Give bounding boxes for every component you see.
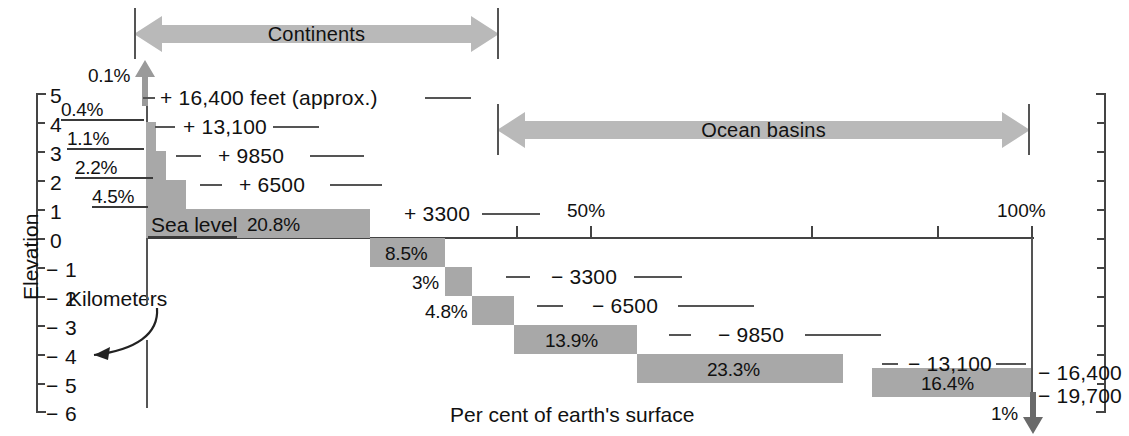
elevation-axis-title: Elevation (20, 214, 41, 300)
continents-banner-right-cap (497, 8, 499, 59)
right-scale-tick-1 (1097, 209, 1106, 211)
percent-label-16-4: 16.4% (921, 374, 974, 393)
percent-axis-tick-25 (516, 226, 518, 238)
feet-leader-minus-6500-right (678, 305, 754, 307)
bar-3-percent (445, 267, 472, 296)
right-scale-tick-m4 (1097, 354, 1106, 356)
hundred-percent-reference-line (1031, 238, 1033, 404)
right-scale-tick-m2 (1097, 296, 1106, 298)
continents-banner-left-cap (134, 8, 136, 59)
feet-leader-minus-3300-left (506, 276, 530, 278)
percent-label-4-5: 4.5% (92, 187, 134, 206)
right-scale-tick-m6 (1097, 411, 1106, 413)
percent-label-0-4: 0.4% (61, 100, 103, 119)
feet-leader-3300-right (482, 213, 540, 215)
percent-axis-tick-75 (811, 226, 813, 238)
feet-leader-9850-right (310, 155, 364, 157)
percent-label-8-5: 8.5% (385, 244, 428, 263)
continents-banner: Continents (134, 14, 499, 54)
hypsographic-curve-figure: Continents Ocean basins 5 4 3 2 1 0 − 1 … (0, 0, 1129, 436)
feet-leader-13100-left (155, 126, 175, 128)
ocean-basins-banner-right-cap (1028, 104, 1030, 155)
percent-label-2-2: 2.2% (75, 158, 117, 177)
bar-4-8-percent (472, 296, 514, 325)
elevation-tick-m5 (36, 383, 45, 385)
feet-label-minus-13100: − 13,100 (908, 353, 992, 374)
elevation-tick-m6 (36, 411, 45, 413)
percent-label-20-8: 20.8% (247, 215, 300, 234)
percent-label-13-9: 13.9% (545, 331, 598, 350)
percent-label-1-1: 1.1% (67, 129, 109, 148)
elevation-label-m5: − 5 (46, 375, 77, 396)
elevation-label-1: 1 (50, 201, 62, 222)
feet-label-minus-19700: − 19,700 (1038, 385, 1122, 406)
feet-label-16400: + 16,400 feet (approx.) (160, 87, 378, 108)
elevation-tick-m3 (36, 325, 45, 327)
percent-rule-2-2 (75, 177, 153, 179)
feet-leader-9850-left (176, 155, 201, 157)
elevation-tick-3 (36, 151, 45, 153)
feet-label-minus-16400: − 16,400 (1038, 362, 1122, 383)
percent-label-3: 3% (412, 273, 439, 292)
sea-level-underline (148, 236, 237, 239)
elevation-tick-1 (36, 209, 45, 211)
feet-leader-minus-3300-right (634, 276, 682, 278)
elevation-label-m1: − 1 (46, 259, 77, 280)
right-scale-tick-m3 (1097, 325, 1106, 327)
percent-label-0-1: 0.1% (88, 66, 130, 85)
elevation-label-2: 2 (50, 172, 62, 193)
percent-leader-4-5 (96, 206, 126, 208)
feet-label-9850: + 9850 (218, 145, 284, 166)
percent-label-1: 1% (991, 404, 1018, 423)
percent-axis-label-50: 50% (567, 201, 605, 220)
right-scale-tick-4 (1097, 122, 1106, 124)
elevation-tick-m4 (36, 354, 45, 356)
feet-label-minus-6500: − 6500 (592, 295, 658, 316)
sea-level-label: Sea level (151, 214, 237, 235)
percent-label-23-3: 23.3% (707, 360, 760, 379)
feet-leader-6500-right (330, 184, 382, 186)
percent-label-4-8: 4.8% (425, 302, 468, 321)
feet-label-3300: + 3300 (404, 203, 470, 224)
ocean-basins-banner-label: Ocean basins (497, 120, 1030, 140)
feet-label-minus-3300: − 3300 (551, 266, 617, 287)
kilometers-arrow-icon (60, 300, 170, 370)
feet-label-minus-9850: − 9850 (718, 324, 784, 345)
feet-leader-13100-right (273, 126, 319, 128)
percent-rule-0-4 (61, 119, 144, 121)
feet-leader-minus-13100-left (882, 363, 898, 365)
elevation-label-m6: − 6 (46, 403, 77, 424)
elevation-tick-5 (36, 93, 45, 95)
elevation-tick-2 (36, 180, 45, 182)
percent-rule-1-1 (67, 148, 144, 150)
elevation-tick-4 (36, 122, 45, 124)
percent-axis-label-100: 100% (997, 201, 1046, 220)
right-scale-tick-m1 (1097, 267, 1106, 269)
percent-axis-tick-90 (937, 226, 939, 238)
ocean-basins-banner-left-cap (497, 104, 499, 155)
feet-leader-minus-13100-right (996, 363, 1026, 365)
feet-leader-16400-left (143, 97, 155, 99)
right-scale-tick-5 (1097, 93, 1106, 95)
zero-percent-reference-line-bottom (146, 340, 148, 408)
zero-percent-reference-line-lower (146, 238, 148, 304)
feet-label-13100: + 13,100 (183, 116, 267, 137)
elevation-label-3: 3 (50, 143, 62, 164)
right-scale-tick-3 (1097, 151, 1106, 153)
feet-leader-16400-right (425, 97, 471, 99)
percent-axis-title: Per cent of earth's surface (450, 404, 694, 425)
feet-leader-6500-left (200, 184, 222, 186)
feet-leader-minus-9850-left (669, 334, 691, 336)
percent-axis-tick-100 (1031, 226, 1033, 238)
feet-label-6500: + 6500 (239, 174, 305, 195)
feet-leader-minus-9850-right (805, 334, 881, 336)
right-scale-tick-2 (1097, 180, 1106, 182)
feet-leader-minus-6500-left (537, 305, 563, 307)
elevation-label-0: 0 (50, 230, 62, 251)
percent-axis-tick-50 (590, 226, 592, 238)
right-scale-tick-0 (1097, 238, 1106, 240)
top-class-arrow-icon (134, 60, 156, 106)
ocean-basins-banner: Ocean basins (497, 110, 1030, 150)
continents-banner-label: Continents (134, 24, 499, 44)
